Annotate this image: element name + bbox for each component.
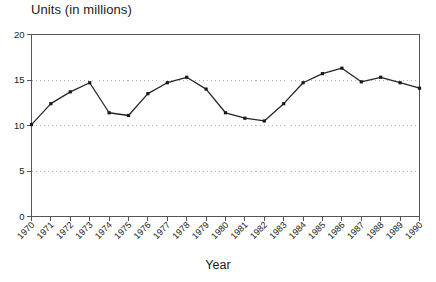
data-point-marker xyxy=(340,67,343,70)
x-tick-label: 1974 xyxy=(93,220,114,241)
x-axis-ticks: 1970197119721973197419751976197719781979… xyxy=(15,217,424,242)
data-point-marker xyxy=(399,81,402,84)
x-tick-label: 1973 xyxy=(73,220,94,241)
data-point-marker xyxy=(108,111,111,114)
data-point-markers xyxy=(30,67,421,127)
plot-frame xyxy=(32,35,420,217)
x-axis-label: Year xyxy=(0,258,436,272)
data-point-marker xyxy=(205,88,208,91)
x-tick-label: 1986 xyxy=(326,220,347,241)
x-tick-label: 1980 xyxy=(209,220,230,241)
chart-container: Units (in millions) 05101520 19701971197… xyxy=(0,0,436,282)
data-point-marker xyxy=(302,81,305,84)
data-point-marker xyxy=(88,81,91,84)
y-tick-label: 15 xyxy=(14,74,25,85)
x-tick-label: 1987 xyxy=(345,220,366,241)
data-point-marker xyxy=(30,123,33,126)
y-tick-label: 5 xyxy=(19,165,24,176)
x-tick-label: 1981 xyxy=(229,220,250,241)
data-point-marker xyxy=(243,117,246,120)
y-tick-label: 20 xyxy=(14,29,25,40)
x-tick-label: 1971 xyxy=(35,220,56,241)
data-point-marker xyxy=(127,114,130,117)
data-point-marker xyxy=(224,111,227,114)
data-point-marker xyxy=(49,102,52,105)
data-point-marker xyxy=(321,72,324,75)
data-series-line xyxy=(32,68,420,124)
data-point-marker xyxy=(263,119,266,122)
x-tick-label: 1972 xyxy=(54,220,75,241)
x-tick-label: 1975 xyxy=(112,220,133,241)
x-tick-label: 1978 xyxy=(170,220,191,241)
x-tick-label: 1989 xyxy=(384,220,405,241)
x-tick-label: 1990 xyxy=(403,220,424,241)
data-point-marker xyxy=(379,76,382,79)
x-tick-label: 1977 xyxy=(151,220,172,241)
x-tick-label: 1982 xyxy=(248,220,269,241)
x-tick-label: 1988 xyxy=(364,220,385,241)
x-tick-label: 1985 xyxy=(306,220,327,241)
x-tick-label: 1970 xyxy=(15,220,36,241)
gridlines-group xyxy=(32,80,420,171)
x-tick-label: 1976 xyxy=(132,220,153,241)
data-point-marker xyxy=(146,92,149,95)
x-tick-label: 1979 xyxy=(190,220,211,241)
x-tick-label: 1984 xyxy=(287,220,308,241)
y-axis-ticks: 05101520 xyxy=(14,29,32,222)
data-point-marker xyxy=(360,80,363,83)
y-tick-label: 10 xyxy=(14,120,25,131)
data-point-marker xyxy=(166,81,169,84)
y-tick-label: 0 xyxy=(19,211,24,222)
data-point-marker xyxy=(185,76,188,79)
data-point-marker xyxy=(282,102,285,105)
data-point-marker xyxy=(69,90,72,93)
data-point-marker xyxy=(418,87,421,90)
line-chart-plot: 05101520 1970197119721973197419751976197… xyxy=(0,0,436,282)
x-tick-label: 1983 xyxy=(267,220,288,241)
